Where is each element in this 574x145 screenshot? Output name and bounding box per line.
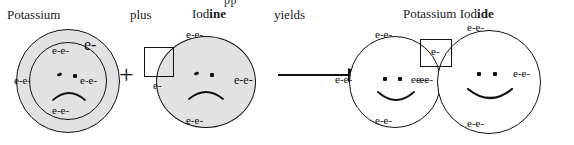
- label-ki-plain: Potassium Iod: [403, 6, 477, 21]
- iodide-ion-electron-right: e-e-: [513, 68, 530, 79]
- potassium-ion-smile-mouth: [376, 89, 416, 109]
- iodine-eye-right: [210, 73, 214, 77]
- iodide-ion-smile-mouth: [466, 86, 514, 108]
- iodide-ion-atom: e-e- e-e- e-e- e-: [437, 30, 541, 134]
- potassium-electron-right: e-e-: [80, 75, 97, 86]
- label-yields: yields: [274, 8, 305, 21]
- label-reactant-iodine: Iodine: [192, 7, 226, 20]
- label-iodine-bold: ine: [209, 6, 226, 21]
- potassium-valence-electron: e-: [84, 37, 96, 53]
- iodide-ion-transfer-box: [420, 39, 452, 67]
- iodide-ion-electron-bottom: e-e-: [467, 118, 484, 129]
- plus-symbol: +: [119, 62, 134, 88]
- potassium-ion-electron-top: e-e-: [375, 29, 392, 40]
- iodide-ion-eye-right: [493, 72, 497, 76]
- potassium-eye-right: [73, 74, 77, 78]
- shared-electron-pair: e-e-: [416, 74, 433, 85]
- iodide-ion-electron-top: e-e-: [467, 22, 484, 33]
- iodine-electron-left-slot: e-: [153, 80, 162, 91]
- potassium-electron-bottom: e-e-: [52, 105, 69, 116]
- iodide-ion-eye-left: [477, 72, 481, 76]
- potassium-atom: e-e- e-e- e-e- e-e- e-: [16, 29, 120, 133]
- potassium-electron-left: e-e-: [14, 75, 31, 86]
- iodine-atom: e-e- e-e- e-e- e-: [156, 36, 256, 128]
- reaction-diagram: pp Potassium plus Iodine yields Potassiu…: [0, 0, 574, 145]
- iodine-electron-top: e-e-: [186, 29, 203, 40]
- iodine-electron-right: e-e-: [234, 74, 253, 86]
- label-reactant-potassium: Potassium: [7, 8, 60, 21]
- potassium-ion-electron-left: e-e-: [335, 74, 352, 85]
- potassium-frown-mouth: [51, 85, 87, 103]
- label-conjunction-plus: plus: [130, 8, 152, 21]
- iodine-frown-mouth: [187, 84, 225, 102]
- potassium-ion-eye-right: [398, 77, 402, 81]
- iodine-electron-bottom: e-e-: [186, 115, 203, 126]
- iodide-ion-shell: [437, 30, 541, 134]
- label-ki-bold: ide: [477, 6, 494, 21]
- potassium-ion-eye-left: [383, 77, 387, 81]
- iodine-empty-slot-box: [144, 47, 174, 77]
- label-product-potassium-iodide: Potassium Iodide: [403, 7, 494, 20]
- label-iodine-plain: Iod: [192, 6, 209, 21]
- potassium-ion-electron-bottom: e-e-: [375, 115, 392, 126]
- potassium-electron-top: e-e-: [52, 45, 69, 56]
